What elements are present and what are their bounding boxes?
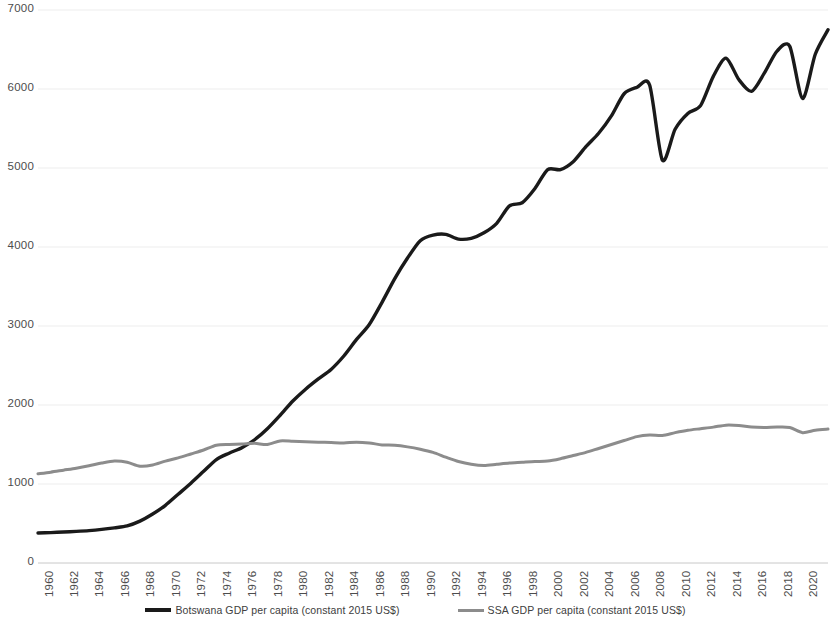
x-tick-label: 1986 [374, 571, 386, 597]
x-tick-label: 2002 [578, 571, 590, 597]
y-tick-label: 1000 [0, 476, 34, 488]
gridlines [38, 10, 828, 563]
data-series-group [38, 30, 828, 533]
x-tick-label: 1990 [425, 571, 437, 597]
x-tick-label: 1998 [527, 571, 539, 597]
x-tick-label: 1988 [399, 571, 411, 597]
x-tick-label: 1994 [476, 571, 488, 597]
x-tick-label: 2000 [552, 571, 564, 597]
y-tick-label: 3000 [0, 318, 34, 330]
y-tick-label: 4000 [0, 239, 34, 251]
x-tick-label: 1980 [297, 571, 309, 597]
x-tick-label: 2014 [731, 571, 743, 597]
legend-label-botswana: Botswana GDP per capita (constant 2015 U… [175, 604, 399, 616]
y-tick-label: 7000 [0, 2, 34, 14]
legend-entry-ssa: SSA GDP per capita (constant 2015 US$) [458, 604, 686, 616]
x-tick-label: 2012 [705, 571, 717, 597]
chart-legend: Botswana GDP per capita (constant 2015 U… [0, 600, 831, 620]
x-tick-label: 2006 [629, 571, 641, 597]
x-tick-label: 2020 [807, 571, 819, 597]
y-tick-label: 0 [0, 555, 34, 567]
x-tick-label: 1966 [119, 571, 131, 597]
legend-entry-botswana: Botswana GDP per capita (constant 2015 U… [145, 604, 399, 616]
x-tick-label: 1960 [43, 571, 55, 597]
x-tick-label: 2016 [756, 571, 768, 597]
legend-swatch-icon-ssa [458, 609, 484, 612]
y-tick-label: 6000 [0, 81, 34, 93]
x-tick-label: 1984 [348, 571, 360, 597]
gdp-per-capita-line-chart: 01000200030004000500060007000 1960196219… [0, 0, 831, 621]
legend-swatch-icon-botswana [145, 608, 171, 611]
x-tick-label: 1962 [68, 571, 80, 597]
y-tick-label: 5000 [0, 160, 34, 172]
x-tick-label: 1974 [221, 571, 233, 597]
x-tick-label: 2008 [654, 571, 666, 597]
series-line-ssa [38, 425, 828, 474]
y-tick-label: 2000 [0, 397, 34, 409]
plot-area [0, 0, 831, 621]
x-tick-label: 1978 [272, 571, 284, 597]
x-tick-label: 1972 [195, 571, 207, 597]
x-tick-label: 1982 [323, 571, 335, 597]
x-tick-label: 2010 [680, 571, 692, 597]
legend-label-ssa: SSA GDP per capita (constant 2015 US$) [488, 604, 686, 616]
x-tick-label: 2018 [782, 571, 794, 597]
x-tick-label: 1968 [144, 571, 156, 597]
x-tick-label: 1996 [501, 571, 513, 597]
x-tick-label: 1970 [170, 571, 182, 597]
x-tick-label: 1992 [450, 571, 462, 597]
x-tick-label: 1964 [93, 571, 105, 597]
series-line-botswana [38, 30, 828, 533]
x-tick-label: 1976 [246, 571, 258, 597]
x-tick-label: 2004 [603, 571, 615, 597]
